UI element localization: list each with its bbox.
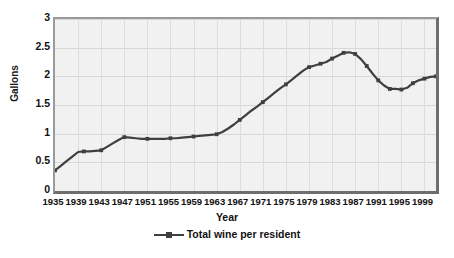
data-point-marker [122,135,126,139]
data-point-marker [215,132,219,136]
caption-sliver [2,250,442,258]
data-point-marker [376,78,380,82]
data-point-marker [365,64,369,68]
data-point-marker [411,81,415,85]
data-point-marker [238,118,242,122]
data-point-marker [55,168,57,172]
y-tick-label: 3 [16,12,50,23]
x-axis-title: Year [0,211,454,223]
data-point-marker [307,65,311,69]
data-point-marker [169,136,173,140]
plot-inner [55,19,436,191]
data-point-marker [261,100,265,104]
data-point-marker [388,87,392,91]
data-point-marker [145,137,149,141]
y-tick-label: 2.5 [16,41,50,52]
y-tick-label: 1.5 [16,98,50,109]
y-tick-label: 1 [16,127,50,138]
y-tick-label: 2 [16,69,50,80]
y-tick-label: 0.5 [16,155,50,166]
data-point-marker [99,148,103,152]
data-point-marker [423,77,427,81]
legend-item-label: Total wine per resident [187,228,301,240]
data-point-marker [353,52,357,56]
x-axis-tick-labels: 1935193919431947195119551959196319671971… [53,197,439,211]
data-point-marker [192,135,196,139]
legend-line-marker-icon [154,229,184,240]
data-point-marker [319,62,323,66]
y-tick-label: 0 [16,184,50,195]
series-canvas [55,19,436,191]
data-point-marker [434,74,436,78]
data-point-marker [342,51,346,55]
data-point-marker [399,88,403,92]
series-line-0 [55,52,436,170]
chart-legend: Total wine per resident [0,228,454,240]
x-tick-label: 1999 [402,197,442,207]
wine-consumption-line-chart: Gallons 00.511.522.53 193519391943194719… [0,0,454,258]
data-point-marker [284,82,288,86]
plot-area [53,17,439,194]
data-point-marker [330,57,334,61]
data-point-marker [82,150,86,154]
